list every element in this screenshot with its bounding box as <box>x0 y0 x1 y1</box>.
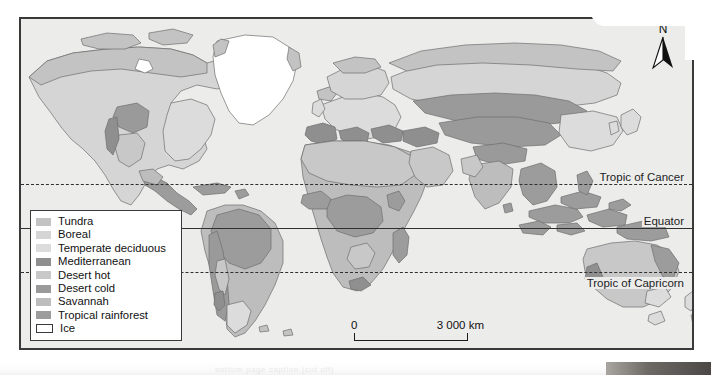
legend-swatch-tundra <box>36 218 51 226</box>
legend-label: Mediterranean <box>58 255 131 268</box>
legend-label: Temperate deciduous <box>58 242 166 255</box>
legend-item: Tundra <box>36 215 177 228</box>
equator-label: Equator <box>642 215 686 227</box>
tropic-of-cancer-label: Tropic of Cancer <box>597 171 686 183</box>
legend-label: Savannah <box>58 295 109 308</box>
legend-swatch-tropical-rainforest <box>36 311 51 319</box>
legend-item: Mediterranean <box>36 255 177 268</box>
legend-label: Tundra <box>58 215 93 228</box>
north-arrow-icon: N <box>648 23 678 71</box>
legend-swatch-desert-cold <box>36 285 51 293</box>
legend-swatch-ice <box>36 324 53 333</box>
scale-bar-min-label: 0 <box>351 319 357 331</box>
tropic-of-capricorn-label: Tropic of Capricorn <box>585 277 686 289</box>
scan-edge-band <box>606 362 711 375</box>
legend-swatch-temperate-deciduous <box>36 244 51 252</box>
legend-label: Ice <box>60 322 75 335</box>
legend-swatch-desert-hot <box>36 271 51 279</box>
tropic-of-cancer-line <box>21 184 692 185</box>
scale-bar-ruler <box>354 333 468 341</box>
cut-off-caption: bottom page caption (cut off) <box>215 365 515 374</box>
legend-label: Desert hot <box>58 269 110 282</box>
scale-bar-labels: 0 3 000 km <box>351 319 486 333</box>
page-root: .ln{stroke:#6e6e6e;stroke-width:.7;strok… <box>0 0 711 375</box>
legend-item: Tropical rainforest <box>36 309 177 322</box>
legend: Tundra Boreal Temperate deciduous Medite… <box>30 210 182 341</box>
page-corner-white-side <box>685 0 711 60</box>
legend-label: Desert cold <box>58 282 115 295</box>
legend-item: Temperate deciduous <box>36 242 177 255</box>
legend-swatch-savannah <box>36 298 51 306</box>
world-map: .ln{stroke:#6e6e6e;stroke-width:.7;strok… <box>19 17 694 350</box>
legend-label: Boreal <box>58 228 91 241</box>
legend-item: Savannah <box>36 295 177 308</box>
legend-label: Tropical rainforest <box>58 309 148 322</box>
legend-item: Ice <box>36 322 177 335</box>
scale-bar-max-label: 3 000 km <box>437 319 484 331</box>
legend-item: Desert hot <box>36 269 177 282</box>
scale-bar: 0 3 000 km <box>351 319 486 341</box>
legend-swatch-boreal <box>36 231 51 239</box>
legend-item: Boreal <box>36 228 177 241</box>
legend-item: Desert cold <box>36 282 177 295</box>
legend-swatch-mediterranean <box>36 258 51 266</box>
